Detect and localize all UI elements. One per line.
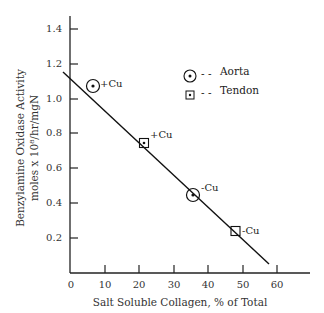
y-axis-title-line2: moles x 10⁸/hr/mgN xyxy=(28,95,40,201)
chart: 0.2 0.4 0.6 0.8 1.0 1.2 1.4 0 10 20 30 4… xyxy=(0,0,324,313)
legend: - - Aorta - - Tendon xyxy=(184,65,259,99)
svg-text:10: 10 xyxy=(99,279,112,290)
svg-text:0.4: 0.4 xyxy=(46,197,62,208)
tendon-plus-cu-point: +Cu xyxy=(140,129,174,148)
svg-text:+Cu: +Cu xyxy=(150,129,173,140)
svg-text:30: 30 xyxy=(168,279,181,290)
y-ticks xyxy=(70,29,78,238)
tendon-minus-cu-point: -Cu xyxy=(231,225,260,236)
svg-text:0.6: 0.6 xyxy=(46,162,62,173)
svg-text:0: 0 xyxy=(68,279,74,290)
svg-text:0.2: 0.2 xyxy=(46,232,62,243)
x-tick-labels: 0 10 20 30 40 50 60 xyxy=(68,279,284,290)
x-axis-title: Salt Soluble Collagen, % of Total xyxy=(93,296,268,308)
legend-item-tendon: - - Tendon xyxy=(186,84,259,99)
svg-text:60: 60 xyxy=(271,279,284,290)
svg-text:0.8: 0.8 xyxy=(46,127,62,138)
svg-text:Aorta: Aorta xyxy=(219,65,249,77)
square-dot-marker-icon xyxy=(231,227,240,236)
svg-text:50: 50 xyxy=(237,279,250,290)
y-tick-labels: 0.2 0.4 0.6 0.8 1.0 1.2 1.4 xyxy=(46,23,62,243)
svg-text:1.4: 1.4 xyxy=(46,23,62,34)
svg-text:-Cu: -Cu xyxy=(201,182,219,193)
svg-text:+Cu: +Cu xyxy=(100,78,123,89)
svg-text:20: 20 xyxy=(133,279,146,290)
svg-text:-Cu: -Cu xyxy=(242,225,260,236)
x-ticks xyxy=(105,265,277,273)
svg-text:40: 40 xyxy=(202,279,215,290)
svg-text:- -: - - xyxy=(201,68,212,80)
aorta-plus-cu-point: +Cu xyxy=(87,78,124,93)
y-axis-title-line1: Benzylamine Oxidase Activity xyxy=(14,69,26,227)
svg-text:Tendon: Tendon xyxy=(220,84,259,96)
svg-text:- -: - - xyxy=(201,87,212,99)
svg-text:1.2: 1.2 xyxy=(46,58,62,69)
svg-text:1.0: 1.0 xyxy=(46,93,62,104)
legend-item-aorta: - - Aorta xyxy=(184,65,249,82)
